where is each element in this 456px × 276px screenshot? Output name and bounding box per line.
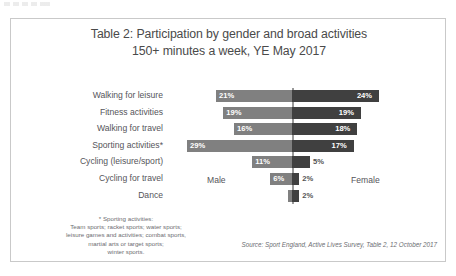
title-line-subtitle: 150+ minutes a week, YE May 2017 — [11, 43, 447, 60]
title-line-main: Table 2: Participation by gender and bro… — [11, 26, 447, 43]
category-label: Sporting activities* — [11, 138, 163, 152]
footnote-line: Team sports; racket sports; water sports… — [33, 223, 219, 231]
chart-frame: Table 2: Participation by gender and bro… — [10, 18, 446, 262]
bar-value-male: 19% — [226, 107, 241, 119]
plot-area: Walking for leisure21%24%Fitness activit… — [11, 71, 447, 206]
category-label: Cycling for travel — [11, 171, 163, 185]
bar-row: Cycling (leisure/sport)11%5% — [11, 155, 447, 169]
footnote-line: * Sporting activities: — [33, 215, 219, 223]
legend-label-female: Female — [351, 175, 380, 185]
bar-value-male: 29% — [190, 140, 205, 152]
bar-row: Dance2% — [11, 189, 447, 203]
bar-value-female: 19% — [339, 107, 354, 119]
bar-row: Fitness activities19%19% — [11, 106, 447, 120]
category-label: Fitness activities — [11, 105, 163, 119]
bar-female — [292, 156, 310, 168]
source-note: Source: Sport England, Active Lives Surv… — [242, 241, 437, 248]
category-label: Dance — [11, 188, 163, 202]
bar-row: Walking for leisure21%24% — [11, 89, 447, 103]
bar-value-male: 16% — [237, 123, 252, 135]
bar-value-female: 17% — [332, 140, 347, 152]
category-label: Walking for travel — [11, 121, 163, 135]
chart-page: Table 2: Participation by gender and bro… — [0, 0, 456, 276]
bar-value-female: 24% — [357, 90, 372, 102]
category-label: Walking for leisure — [11, 88, 163, 102]
footnote-line: martial arts or target sports; — [33, 240, 219, 248]
chart-title: Table 2: Participation by gender and bro… — [11, 26, 447, 59]
category-label: Cycling (leisure/sport) — [11, 154, 163, 168]
footnote-block: * Sporting activities:Team sports; racke… — [33, 215, 219, 256]
bar-value-female: 18% — [335, 123, 350, 135]
bar-value-male: 21% — [219, 90, 234, 102]
scan-artifact — [4, 2, 50, 6]
bar-row: Cycling for travel6%2% — [11, 172, 447, 186]
bar-value-female: 2% — [302, 190, 313, 202]
bar-female — [292, 173, 299, 185]
legend-label-male: Male — [207, 175, 226, 185]
bar-female — [292, 190, 299, 202]
bar-value-male: 11% — [255, 156, 270, 168]
footnote-line: leisure games and activities; combat spo… — [33, 231, 219, 239]
bar-row: Walking for travel16%18% — [11, 122, 447, 136]
bar-value-female: 2% — [302, 173, 313, 185]
footnote-line: winter sports. — [33, 248, 219, 256]
bar-value-male: 6% — [273, 173, 284, 185]
bar-row: Sporting activities*29%17% — [11, 139, 447, 153]
bar-value-female: 5% — [313, 156, 324, 168]
